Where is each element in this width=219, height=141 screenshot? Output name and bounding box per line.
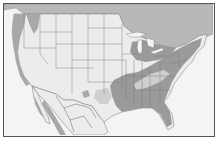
range-map xyxy=(3,3,215,137)
map-canvas xyxy=(4,4,213,135)
